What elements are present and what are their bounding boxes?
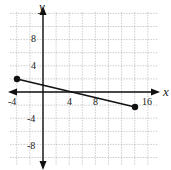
y-tick-label: -8 [27, 140, 35, 151]
segment-endpoint-left [14, 76, 20, 82]
segment-endpoint-right [132, 104, 138, 110]
x-axis-arrow-left-icon [8, 89, 17, 96]
x-tick-label: 4 [67, 96, 72, 107]
x-tick-label: -4 [8, 96, 16, 107]
y-tick-label: 8 [31, 33, 36, 44]
coordinate-graph: x y -4 4 8 16 8 4 -4 -8 [0, 0, 171, 170]
y-tick-label: -4 [27, 113, 35, 124]
line-segment [17, 79, 135, 107]
x-axis-arrow-right-icon [151, 89, 160, 96]
y-axis-arrow-down-icon [40, 161, 47, 170]
y-axis-label: y [37, 0, 45, 14]
y-tick-label: 4 [31, 60, 36, 71]
x-axis-label: x [162, 84, 169, 99]
x-tick-label: 16 [142, 96, 152, 107]
x-tick-label: 8 [93, 96, 98, 107]
